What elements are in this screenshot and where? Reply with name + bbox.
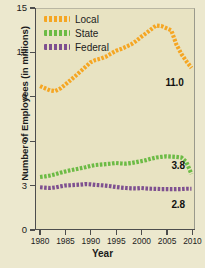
y-tick xyxy=(30,141,35,142)
y-tick-label: 9 xyxy=(0,91,27,102)
x-tick xyxy=(90,230,91,235)
data-label-federal: 2.8 xyxy=(171,199,184,210)
y-axis-title: Number of Employees (in millions) xyxy=(19,14,30,194)
x-tick xyxy=(39,230,40,235)
employment-line-chart: Number of Employees (in millions) 036912… xyxy=(0,0,205,268)
y-tick xyxy=(30,52,35,53)
x-axis-title: Year xyxy=(0,248,205,259)
x-tick xyxy=(166,230,167,235)
y-tick xyxy=(30,7,35,8)
y-tick-label: 15 xyxy=(0,2,27,13)
data-label-state: 3.8 xyxy=(171,160,184,171)
series-line-federal xyxy=(40,184,191,189)
y-tick xyxy=(30,229,35,230)
y-tick-label: 6 xyxy=(0,135,27,146)
legend-item-local[interactable]: Local xyxy=(44,13,109,25)
x-tick xyxy=(192,230,193,235)
y-tick-label: 0 xyxy=(0,224,27,235)
x-tick xyxy=(116,230,117,235)
data-label-local: 11.0 xyxy=(165,77,183,88)
legend-label-local: Local xyxy=(75,14,99,25)
y-tick xyxy=(30,185,35,186)
legend-label-federal: Federal xyxy=(75,42,109,53)
y-tick xyxy=(30,96,35,97)
x-tick xyxy=(141,230,142,235)
x-tick xyxy=(65,230,66,235)
x-tick-label: 2010 xyxy=(177,236,205,246)
series-line-state xyxy=(40,156,191,177)
y-tick-label: 3 xyxy=(0,180,27,191)
legend-item-federal[interactable]: Federal xyxy=(44,41,109,53)
legend-swatch-federal xyxy=(44,44,70,50)
legend-label-state: State xyxy=(75,28,98,39)
legend-swatch-state xyxy=(44,30,70,36)
legend-swatch-local xyxy=(44,16,70,22)
y-tick-label: 12 xyxy=(0,46,27,57)
legend-item-state[interactable]: State xyxy=(44,27,109,39)
chart-legend: Local State Federal xyxy=(44,13,109,53)
y-axis-line xyxy=(35,8,36,230)
